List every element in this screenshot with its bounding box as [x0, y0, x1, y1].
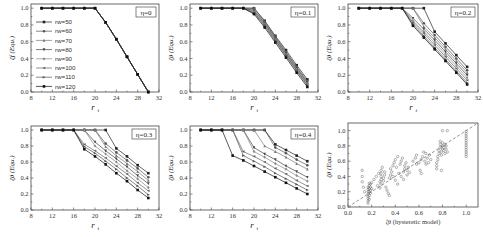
scatter-point	[439, 140, 441, 142]
data-point	[274, 146, 277, 149]
scatter-point	[378, 172, 380, 174]
x-tick-label: 16	[70, 94, 77, 101]
data-point	[126, 155, 129, 158]
data-point	[306, 189, 309, 192]
eta-annotation: η=0.2	[455, 9, 472, 17]
scatter-point	[389, 174, 391, 176]
scatter-point	[361, 175, 363, 177]
data-point	[423, 7, 426, 10]
figure-canvas: 81216202428320.00.20.40.60.81.0rfζf (Equ…	[0, 0, 483, 237]
scatter-point	[412, 160, 414, 162]
scatter-point	[405, 162, 407, 164]
scatter-point	[401, 157, 403, 159]
scatter-point	[465, 144, 467, 146]
data-point	[104, 150, 107, 153]
x-axis-label: r	[250, 220, 254, 230]
data-point	[433, 30, 436, 33]
data-point	[253, 165, 256, 168]
data-point	[358, 7, 361, 10]
scatter-point	[393, 162, 395, 164]
scatter-point	[422, 151, 424, 153]
scatter-point	[382, 180, 384, 182]
data-point	[306, 180, 309, 183]
scatter-point	[373, 178, 375, 180]
data-point	[62, 129, 65, 132]
data-point	[263, 170, 266, 173]
x-axis-label: r	[91, 220, 95, 230]
data-point	[147, 194, 150, 197]
scatter-point	[421, 155, 423, 157]
scatter-point	[404, 165, 406, 167]
data-point	[115, 151, 118, 154]
series-line-rw=120	[201, 8, 308, 87]
data-point	[379, 7, 382, 10]
scatter-point	[396, 155, 398, 157]
scatter-point	[427, 162, 429, 164]
x-tick-label: 12	[49, 94, 56, 101]
y-tick-label: 0.4	[20, 55, 29, 62]
scatter-point	[381, 166, 383, 168]
legend-marker	[43, 76, 46, 79]
data-point	[104, 163, 107, 166]
scatter-point	[425, 163, 427, 165]
scatter-point	[414, 157, 416, 159]
x-tick-label: 28	[293, 212, 300, 219]
y-tick-label: 0.0	[179, 206, 187, 213]
y-tick-label: 0.4	[337, 173, 346, 180]
eta-annotation: η=0	[140, 9, 152, 17]
data-point	[274, 162, 277, 165]
x-tick-label: 8	[188, 212, 191, 219]
panel-eta-0.3: 81216202428320.00.20.40.60.81.0rfζθ (Equ…	[8, 126, 162, 231]
y-tick-label: 0.6	[179, 158, 188, 165]
scatter-point	[440, 169, 442, 171]
x-tick-label: 1.0	[462, 209, 470, 216]
legend-marker	[43, 21, 46, 24]
x-tick-label: 0.6	[415, 209, 424, 216]
y-axis-label: ζf (Equ.)	[8, 35, 16, 60]
data-point	[263, 129, 266, 132]
y-tick-label: 0.2	[179, 71, 187, 78]
x-tick-label: 16	[70, 212, 77, 219]
y-axis-label: ζθ (Equ.)	[325, 35, 333, 61]
data-point	[199, 7, 202, 10]
x-tick-label: 0.4	[391, 209, 400, 216]
data-point	[242, 7, 245, 10]
data-point	[51, 129, 54, 132]
scatter-point	[415, 163, 417, 165]
x-tick-label: 8	[346, 94, 349, 101]
scatter-point	[400, 175, 402, 177]
series-line-rw=50	[201, 8, 308, 79]
data-point	[126, 56, 129, 59]
data-point	[40, 7, 43, 10]
data-point	[295, 187, 298, 190]
y-tick-label: 0.6	[20, 158, 29, 165]
data-point	[285, 152, 288, 155]
x-tick-label: 20	[410, 94, 417, 101]
data-point	[147, 91, 150, 94]
data-point	[433, 48, 436, 51]
y-tick-label: 0.6	[337, 38, 346, 45]
x-axis-label-sub: f	[257, 108, 259, 113]
scatter-point	[440, 154, 442, 156]
x-axis-label-sub: f	[98, 108, 100, 113]
y-tick-label: 0.0	[20, 88, 28, 95]
scatter-point	[375, 175, 377, 177]
scatter-point	[394, 179, 396, 181]
scatter-point	[392, 175, 394, 177]
x-tick-label: 16	[229, 94, 236, 101]
data-point	[466, 69, 469, 72]
y-tick-label: 1.0	[337, 127, 345, 134]
data-point	[72, 7, 75, 10]
scatter-point	[465, 132, 467, 134]
scatter-point	[383, 174, 385, 176]
scatter-point	[465, 135, 467, 137]
x-tick-label: 28	[453, 94, 460, 101]
scatter-point	[420, 172, 422, 174]
x-tick-label: 32	[475, 94, 482, 101]
scatter-point	[437, 155, 439, 157]
series-line-rw=110	[42, 130, 149, 195]
scatter-point	[441, 129, 443, 131]
x-tick-label: 28	[293, 94, 300, 101]
y-tick-label: 0.6	[20, 38, 29, 45]
legend-label: rw=110	[55, 73, 76, 80]
